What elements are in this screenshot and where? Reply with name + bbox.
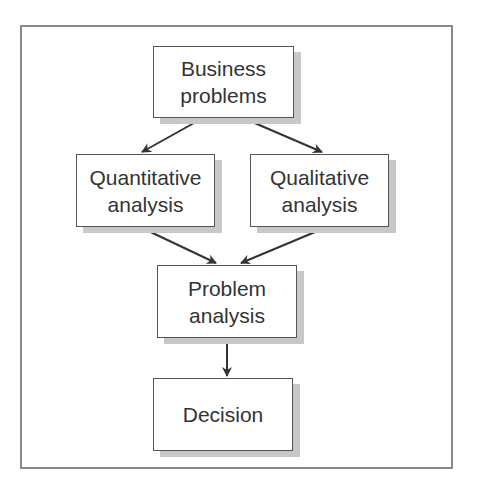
node-label-line: analysis	[189, 302, 265, 329]
node-label-line: Decision	[183, 401, 264, 428]
node-label-line: Qualitative	[270, 164, 369, 191]
node-label-line: Problem	[188, 275, 266, 302]
node-business-problems: Business problems	[153, 46, 294, 118]
edge-business-quant	[142, 118, 203, 152]
node-label-line: Business	[181, 55, 266, 82]
edge-business-qual	[243, 118, 322, 152]
node-quantitative-analysis: Quantitative analysis	[76, 154, 215, 227]
node-problem-analysis: Problem analysis	[157, 265, 297, 338]
edge-qual-problem	[241, 227, 327, 263]
node-label-line: problems	[180, 82, 266, 109]
node-decision: Decision	[153, 378, 293, 451]
node-label-line: analysis	[282, 191, 358, 218]
node-label-line: analysis	[108, 191, 184, 218]
edge-quant-problem	[140, 227, 216, 263]
node-label-line: Quantitative	[89, 164, 201, 191]
node-qualitative-analysis: Qualitative analysis	[250, 154, 389, 227]
